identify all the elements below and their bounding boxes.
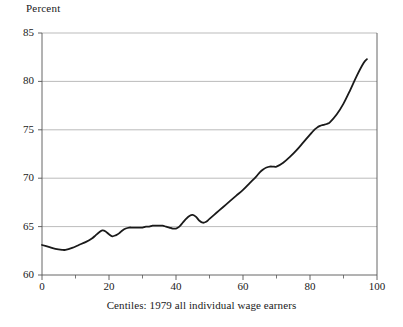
x-tick-label: 100 xyxy=(357,281,397,292)
x-tick-label: 80 xyxy=(290,281,330,292)
y-tick-label: 70 xyxy=(8,172,34,183)
x-tick-label: 20 xyxy=(89,281,129,292)
plot-area xyxy=(0,0,403,327)
x-axis-title: Centiles: 1979 all individual wage earne… xyxy=(0,299,403,311)
y-tick-label: 85 xyxy=(8,27,34,38)
gridlines xyxy=(42,33,377,227)
y-tick-label: 65 xyxy=(8,221,34,232)
x-tick-label: 40 xyxy=(156,281,196,292)
x-tick-label: 60 xyxy=(223,281,263,292)
x-tick-label: 0 xyxy=(22,281,62,292)
y-tick-label: 80 xyxy=(8,75,34,86)
y-tick-label: 75 xyxy=(8,124,34,135)
data-line-percent xyxy=(42,59,367,250)
chart-figure: Percent 606570758085 020406080100 Centil… xyxy=(0,0,403,327)
y-tick-label: 60 xyxy=(8,269,34,280)
tick-marks xyxy=(38,33,377,280)
